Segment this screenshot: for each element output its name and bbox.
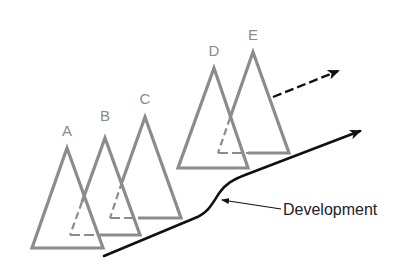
triangle-e	[218, 52, 289, 153]
development-arrow	[104, 131, 360, 256]
development-leader-line	[222, 200, 281, 209]
triangle-label-a: A	[62, 122, 72, 139]
development-diagram: A B C D E Development	[0, 0, 410, 276]
triangle-a	[32, 148, 103, 248]
diagram-canvas: A B C D E Development	[0, 0, 410, 276]
triangle-label-b: B	[100, 107, 110, 124]
triangle-label-c: C	[140, 90, 151, 107]
triangle-label-d: D	[209, 42, 220, 59]
triangle-c	[110, 117, 181, 218]
triangle-label-e: E	[248, 26, 258, 43]
development-label: Development	[283, 201, 378, 218]
dashed-arrow	[273, 71, 338, 97]
